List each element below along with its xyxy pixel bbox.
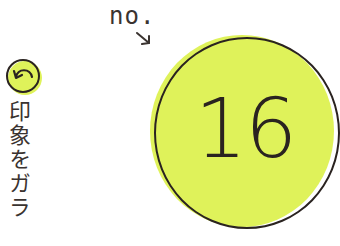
undo-arrow-icon: [6, 59, 40, 93]
back-button[interactable]: [6, 59, 40, 93]
vertical-heading: 印象をガラ: [8, 100, 32, 220]
arrow-down-right-icon: [134, 30, 154, 48]
number-prefix-label: no.: [109, 2, 155, 30]
number-value: 16: [190, 81, 300, 176]
number-badge: 16: [154, 37, 340, 229]
